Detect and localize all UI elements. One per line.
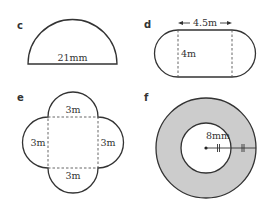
stadium-shape bbox=[155, 30, 256, 77]
figure-d-label: d bbox=[144, 19, 151, 30]
semicircle-diameter-label: 21mm bbox=[57, 52, 87, 63]
inner-square-dashed bbox=[48, 117, 98, 168]
inner-radius-label: 8mm bbox=[206, 130, 230, 141]
figure-e-label: e bbox=[17, 92, 24, 103]
figures-canvas: c 21mm d 4.5m 4m e 3m 3m 3m 3m f bbox=[0, 0, 270, 210]
figure-e: e 3m 3m 3m 3m bbox=[17, 92, 124, 193]
side-label-bottom: 3m bbox=[65, 170, 80, 181]
figure-d: d 4.5m 4m bbox=[144, 17, 255, 77]
side-label-top: 3m bbox=[65, 104, 80, 115]
side-label-left: 3m bbox=[30, 137, 45, 148]
arrow-left-icon bbox=[178, 21, 183, 25]
arrow-right-icon bbox=[227, 21, 232, 25]
stadium-width-label: 4m bbox=[181, 48, 196, 59]
figure-c-label: c bbox=[17, 20, 23, 31]
figure-c: c 21mm bbox=[17, 20, 117, 65]
side-label-right: 3m bbox=[100, 137, 115, 148]
figure-f-label: f bbox=[144, 92, 149, 103]
figure-f: f 8mm bbox=[144, 92, 256, 198]
stadium-length-label: 4.5m bbox=[193, 17, 217, 28]
